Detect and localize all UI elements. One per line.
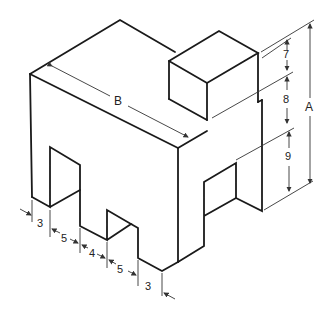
dimension-a: A (305, 24, 313, 183)
label-4: 4 (89, 247, 95, 259)
label-b: B (114, 94, 122, 108)
label-5-a: 5 (61, 232, 67, 244)
label-5-b: 5 (117, 263, 123, 275)
label-7: 7 (283, 48, 289, 60)
extension-lines-right (212, 20, 314, 210)
label-8: 8 (283, 93, 289, 105)
label-a: A (305, 100, 313, 114)
dimension-b: B (52, 66, 188, 137)
dimension-chain-bottom: 3 5 4 5 3 (20, 200, 175, 299)
dimension-stack: 7 8 9 (283, 40, 291, 191)
label-3-left: 3 (37, 217, 43, 229)
label-9: 9 (285, 150, 291, 162)
isometric-drawing: B 7 8 9 A 3 5 (0, 0, 332, 317)
label-3-right: 3 (145, 280, 151, 292)
upper-box (169, 31, 258, 120)
